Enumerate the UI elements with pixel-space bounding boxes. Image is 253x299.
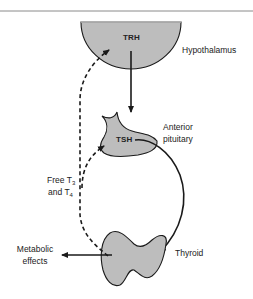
hpt-axis-diagram: TRH TSH Hypothalamus Anterior pituitary …	[0, 0, 253, 299]
and-t4-text: and T	[48, 187, 70, 197]
thyroid-label: Thyroid	[175, 248, 203, 259]
thyroid-shape	[101, 231, 166, 285]
metabolic-label: Metabolic	[14, 244, 56, 255]
pituitary-label: pituitary	[163, 134, 193, 145]
t3-subscript: 3	[72, 180, 75, 186]
anterior-label: Anterior	[163, 122, 193, 133]
free-t3-text: Free T	[47, 175, 72, 185]
tsh-label: TSH	[116, 135, 133, 144]
and-t4-label: and T4	[48, 187, 73, 198]
trh-label: TRH	[123, 33, 140, 42]
t4-subscript: 4	[70, 192, 73, 198]
effects-label: effects	[14, 256, 56, 267]
hypothalamus-label: Hypothalamus	[182, 45, 236, 56]
free-t3-label: Free T3	[47, 175, 75, 186]
feedback-to-pituitary	[82, 146, 104, 188]
